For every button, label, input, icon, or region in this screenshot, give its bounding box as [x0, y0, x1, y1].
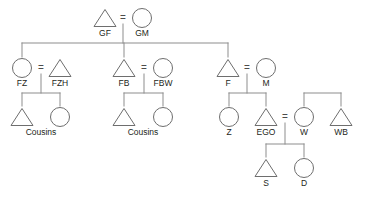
- female-circle-icon: [51, 108, 70, 127]
- kin-node-fz-cousin-daughter[interactable]: [51, 108, 70, 127]
- kin-node-label-fbw: FBW: [154, 78, 173, 88]
- kin-node-label-fb: FB: [119, 78, 130, 88]
- kin-node-label-s: S: [263, 178, 269, 188]
- kin-node-wb[interactable]: WB: [330, 109, 352, 138]
- male-triangle-icon: [255, 109, 277, 126]
- kin-node-label-wb: WB: [334, 127, 348, 137]
- kin-node-label-ego: EGO: [257, 127, 276, 137]
- female-circle-icon: [220, 108, 239, 127]
- kinship-nodes-layer: GFGMFZFZHFBFBWFMZEGOWWBSD: [11, 9, 352, 189]
- kin-node-fbw[interactable]: FBW: [154, 59, 173, 89]
- generation-4-children: SD: [255, 159, 314, 189]
- kin-node-label-d: D: [301, 178, 307, 188]
- kin-node-fz[interactable]: FZ: [13, 59, 32, 89]
- kin-node-m[interactable]: M: [257, 59, 276, 89]
- male-triangle-icon: [11, 109, 33, 126]
- kin-node-label-fzh: FZH: [52, 78, 69, 88]
- connector-lines: [22, 24, 341, 157]
- female-circle-icon: [154, 59, 173, 78]
- kinship-diagram-canvas: GFGMFZFZHFBFBWFMZEGOWWBSD ===== CousinsC…: [0, 0, 369, 199]
- kin-node-label-gm: GM: [135, 28, 149, 38]
- union-EGO-W: =: [282, 111, 288, 122]
- kin-node-w[interactable]: W: [295, 108, 314, 138]
- kin-node-fb[interactable]: FB: [113, 60, 135, 89]
- male-triangle-icon: [113, 60, 135, 77]
- kin-node-gm[interactable]: GM: [133, 9, 152, 39]
- female-circle-icon: [295, 108, 314, 127]
- kin-node-label-w: W: [300, 127, 308, 137]
- kin-node-fzh[interactable]: FZH: [49, 60, 71, 89]
- kin-node-gf[interactable]: GF: [94, 10, 116, 39]
- male-triangle-icon: [330, 109, 352, 126]
- female-circle-icon: [133, 9, 152, 28]
- cousin-group-labels-layer: CousinsCousins: [26, 127, 159, 137]
- generation-3-ego: ZEGOWWB: [11, 108, 352, 138]
- union-GF-GM: =: [120, 12, 126, 23]
- male-triangle-icon: [217, 60, 239, 77]
- kin-node-fz-cousin-son[interactable]: [11, 109, 33, 126]
- kin-node-label-m: M: [262, 78, 269, 88]
- female-circle-icon: [295, 159, 314, 178]
- kin-node-f[interactable]: F: [217, 60, 239, 89]
- female-circle-icon: [257, 59, 276, 78]
- kin-node-fb-cousin-son[interactable]: [113, 109, 135, 126]
- kin-node-fb-cousin-daughter[interactable]: [154, 108, 173, 127]
- male-triangle-icon: [49, 60, 71, 77]
- kinship-diagram: GFGMFZFZHFBFBWFMZEGOWWBSD ===== CousinsC…: [0, 0, 369, 199]
- kin-node-label-z: Z: [226, 127, 231, 137]
- union-FZ-FZH: =: [38, 62, 44, 73]
- kin-node-label-gf: GF: [99, 28, 111, 38]
- group-label-cousins-left: Cousins: [26, 127, 57, 137]
- union-FB-FBW: =: [141, 62, 147, 73]
- group-label-cousins-middle: Cousins: [128, 127, 159, 137]
- kin-node-z[interactable]: Z: [220, 108, 239, 138]
- kin-node-label-f: F: [225, 78, 230, 88]
- male-triangle-icon: [94, 10, 116, 27]
- female-circle-icon: [13, 59, 32, 78]
- kin-node-d[interactable]: D: [295, 159, 314, 189]
- kin-node-label-fz: FZ: [17, 78, 27, 88]
- male-triangle-icon: [255, 160, 277, 177]
- kin-node-ego[interactable]: EGO: [255, 109, 277, 138]
- male-triangle-icon: [113, 109, 135, 126]
- union-F-M: =: [244, 62, 250, 73]
- kin-node-s[interactable]: S: [255, 160, 277, 189]
- female-circle-icon: [154, 108, 173, 127]
